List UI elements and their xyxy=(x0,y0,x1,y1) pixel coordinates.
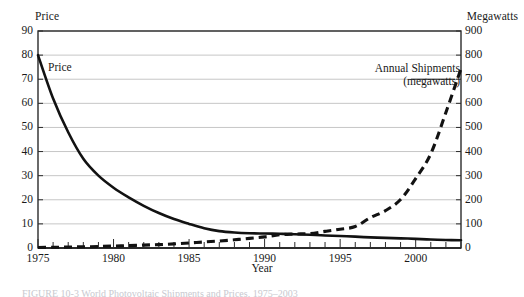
series-annotation-annual-shipments: Annual Shipments (megawatts) xyxy=(375,62,460,88)
right-axis-tick-label-100: 100 xyxy=(465,217,495,229)
left-axis-tick-label-60: 60 xyxy=(7,96,33,108)
left-axis-tick-label-30: 30 xyxy=(7,169,33,181)
left-axis-title: Price xyxy=(35,10,59,22)
series-line-annual-shipments xyxy=(38,69,461,248)
right-axis-tick-label-0: 0 xyxy=(465,241,495,253)
right-axis-tick-label-600: 600 xyxy=(465,96,495,108)
figure-photovoltaic-shipments-and-prices: Price Megawatts Price Annual Shipments (… xyxy=(0,0,524,297)
left-axis-tick-label-20: 20 xyxy=(7,193,33,205)
right-axis-tick-label-500: 500 xyxy=(465,120,495,132)
x-axis-tick-label-1980: 1980 xyxy=(92,252,136,264)
x-axis-tick-label-1995: 1995 xyxy=(318,252,362,264)
right-axis-tick-label-200: 200 xyxy=(465,193,495,205)
x-axis-tick-label-2000: 2000 xyxy=(394,252,438,264)
left-axis-tick-label-90: 90 xyxy=(7,24,33,36)
right-axis-tick-label-800: 800 xyxy=(465,48,495,60)
x-axis-tick-label-1985: 1985 xyxy=(167,252,211,264)
right-axis-tick-label-400: 400 xyxy=(465,145,495,157)
x-axis-ticks xyxy=(38,239,461,248)
left-axis-tick-label-40: 40 xyxy=(7,145,33,157)
right-axis-tick-label-300: 300 xyxy=(465,169,495,181)
figure-caption: FIGURE 10-3 World Photovoltaic Shipments… xyxy=(22,288,298,297)
right-axis-tick-label-900: 900 xyxy=(465,24,495,36)
x-axis-tick-label-1990: 1990 xyxy=(243,252,287,264)
left-axis-tick-label-50: 50 xyxy=(7,120,33,132)
right-axis-title: Megawatts xyxy=(467,10,518,22)
series-annotation-price: Price xyxy=(48,61,72,74)
right-axis-tick-label-700: 700 xyxy=(465,72,495,84)
gridlines xyxy=(38,31,461,224)
series-annotation-annual-shipments-line1: Annual Shipments xyxy=(375,62,460,75)
series-annotation-annual-shipments-line2: (megawatts) xyxy=(375,75,460,88)
left-axis-tick-label-10: 10 xyxy=(7,217,33,229)
left-axis-tick-label-80: 80 xyxy=(7,48,33,60)
x-axis-tick-label-1975: 1975 xyxy=(16,252,60,264)
left-axis-tick-label-70: 70 xyxy=(7,72,33,84)
